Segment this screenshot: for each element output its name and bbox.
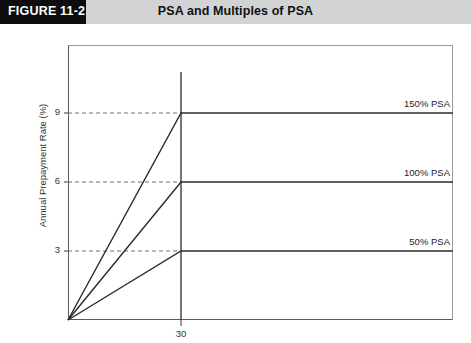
y-tick-label-9: 9	[36, 106, 60, 117]
series-label-150-psa: 150% PSA	[330, 98, 450, 109]
y-tick-label-6: 6	[36, 175, 60, 186]
figure-header-band: FIGURE 11-2 PSA and Multiples of PSA	[0, 0, 471, 24]
x-tick-label-30: 30	[161, 328, 201, 339]
plot-canvas	[0, 24, 471, 343]
series-label-50-psa: 50% PSA	[330, 236, 450, 247]
y-axis-ticks	[64, 113, 68, 251]
series-label-100-psa: 100% PSA	[330, 167, 450, 178]
figure-title: PSA and Multiples of PSA	[0, 4, 471, 18]
y-tick-label-3: 3	[36, 244, 60, 255]
chart-figure: Annual Prepayment Rate (%) 9 6 3 3	[0, 24, 471, 343]
series-line-50-psa	[68, 251, 453, 320]
gridlines	[68, 113, 181, 251]
series-lines	[68, 113, 453, 320]
series-line-150-psa	[68, 113, 453, 320]
